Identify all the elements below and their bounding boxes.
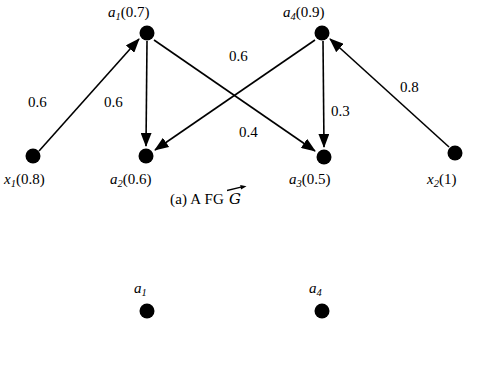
node-label-b-a1-symbol: a bbox=[134, 280, 142, 296]
vector-arrow-icon bbox=[227, 185, 247, 193]
node-label-a2-value: (0.6) bbox=[123, 171, 152, 187]
node-label-a3-symbol: a bbox=[289, 171, 297, 187]
node-label-a2: a2(0.6) bbox=[110, 172, 152, 189]
edge-a1-a2 bbox=[146, 41, 147, 146]
node-label-x1-symbol: x bbox=[4, 171, 11, 187]
node-label-x1-value: (0.8) bbox=[16, 171, 45, 187]
edge-label-x2-a4: 0.8 bbox=[400, 80, 419, 95]
node-x1[interactable] bbox=[26, 149, 41, 164]
node-label-a4-value: (0.9) bbox=[296, 4, 325, 20]
node-label-a3-value: (0.5) bbox=[302, 171, 331, 187]
figure-caption-graph-symbol: G bbox=[228, 192, 242, 207]
edge-x1-a1 bbox=[39, 39, 139, 151]
node-a4[interactable] bbox=[315, 26, 330, 41]
edge-label-a1-a2: 0.6 bbox=[104, 95, 123, 110]
node-label-x2: x2(1) bbox=[427, 172, 456, 189]
edge-label-x1-a1: 0.6 bbox=[28, 95, 47, 110]
node-label-b-a4-subscript: 4 bbox=[317, 287, 322, 298]
graph-a-nodes bbox=[26, 26, 463, 165]
edge-label-a4-a3: 0.3 bbox=[331, 104, 350, 119]
figure-caption: (a) A FG G bbox=[170, 192, 242, 207]
node-label-a2-symbol: a bbox=[110, 171, 118, 187]
node-label-a1: a1(0.7) bbox=[108, 5, 150, 22]
edge-a4-a3 bbox=[323, 41, 324, 147]
edge-label-a1-a3: 0.4 bbox=[239, 125, 258, 140]
node-label-b-a4-symbol: a bbox=[309, 280, 317, 296]
node-b-a4[interactable] bbox=[315, 304, 330, 319]
edge-label-a4-a2: 0.6 bbox=[229, 49, 248, 64]
node-b-a1[interactable] bbox=[140, 304, 155, 319]
node-label-a4: a4(0.9) bbox=[283, 5, 325, 22]
node-label-a1-value: (0.7) bbox=[121, 4, 150, 20]
node-label-x2-symbol: x bbox=[427, 171, 434, 187]
node-label-a1-symbol: a bbox=[108, 4, 116, 20]
node-label-a4-symbol: a bbox=[283, 4, 291, 20]
node-label-a3: a3(0.5) bbox=[289, 172, 331, 189]
node-label-b-a1-subscript: 1 bbox=[142, 287, 147, 298]
node-a3[interactable] bbox=[317, 150, 332, 165]
node-a2[interactable] bbox=[139, 149, 154, 164]
node-a1[interactable] bbox=[140, 26, 155, 41]
figure-page: a1(0.7) a4(0.9) x1(0.8) a2(0.6) a3(0.5) … bbox=[0, 0, 479, 376]
node-label-b-a1: a1 bbox=[134, 281, 147, 298]
node-label-b-a4: a4 bbox=[309, 281, 322, 298]
figure-caption-mid: FG bbox=[205, 191, 225, 207]
node-label-x1: x1(0.8) bbox=[4, 172, 45, 189]
node-label-x2-value: (1) bbox=[439, 171, 457, 187]
node-x2[interactable] bbox=[448, 146, 463, 161]
graph-b-nodes bbox=[140, 304, 330, 319]
edge-x2-a4 bbox=[330, 39, 449, 147]
figure-caption-prefix: (a) A bbox=[170, 191, 201, 207]
